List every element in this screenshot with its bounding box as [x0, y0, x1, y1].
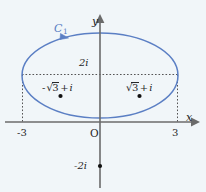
point-left-operator: +	[59, 82, 69, 93]
x-axis-arrowhead	[191, 118, 200, 127]
point-label-left: -√3+i	[41, 82, 73, 93]
point-left-imaginary: i	[70, 82, 73, 93]
contour-label: C1	[54, 23, 68, 36]
y-tick-label-2i: 2i	[79, 58, 89, 68]
diagram-canvas	[0, 0, 206, 192]
point-right-radicand: 3	[131, 82, 138, 93]
point-right-imaginary: i	[149, 82, 152, 93]
point-dot-neg2i	[98, 164, 102, 168]
x-axis-label: x	[186, 112, 192, 123]
point-left-radical: √3	[46, 82, 59, 93]
complex-plane-figure: C1 y x O 2i -2i -3 3 -√3+i √3+i	[0, 0, 206, 192]
axes	[5, 14, 200, 188]
y-axis-label: y	[92, 16, 98, 27]
point-dot-right	[137, 94, 141, 98]
point-label-right: √3+i	[124, 82, 152, 93]
origin-label: O	[90, 128, 99, 139]
point-left-radicand: 3	[52, 82, 59, 93]
x-tick-label-neg3: -3	[17, 128, 27, 138]
x-tick-label-3: 3	[172, 128, 178, 138]
point-right-radical: √3	[126, 82, 139, 93]
y-tick-label-neg2i: -2i	[74, 161, 87, 171]
contour-label-base: C	[54, 22, 62, 35]
contour-label-subscript: 1	[63, 27, 68, 36]
point-right-operator: +	[139, 82, 149, 93]
point-dot-left	[58, 94, 62, 98]
